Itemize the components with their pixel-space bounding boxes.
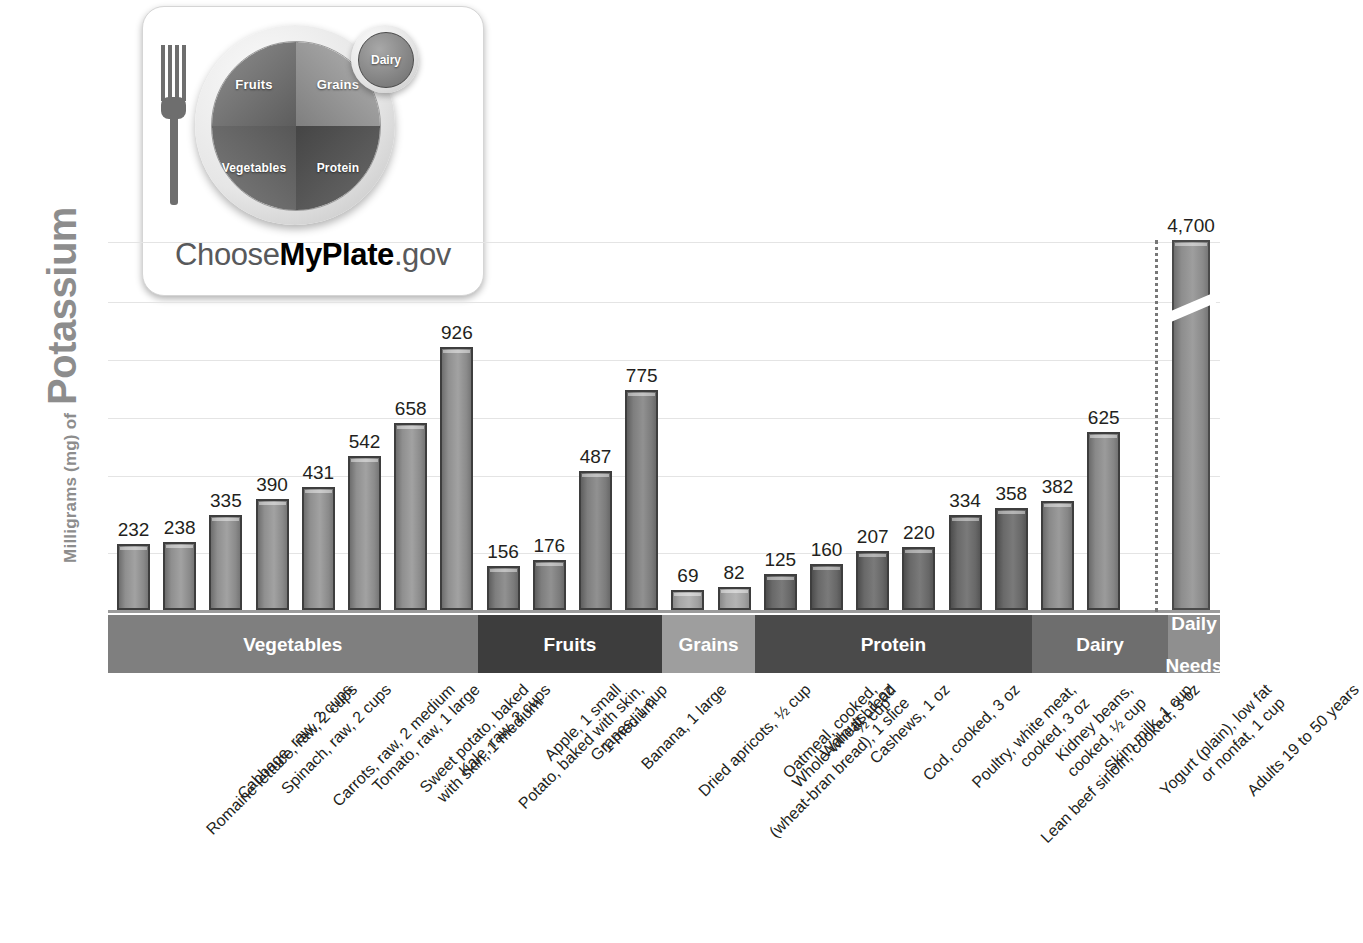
bar-value-label: 658	[378, 398, 443, 420]
bar-value-label: 238	[147, 517, 212, 539]
bar-highlight	[443, 350, 470, 353]
bar[interactable]	[533, 560, 566, 610]
gridline	[108, 242, 1220, 243]
y-axis-title: Milligrams (mg) of Potassium	[40, 145, 100, 625]
bar-highlight	[952, 518, 979, 521]
category-label-protein: Protein	[755, 615, 1032, 673]
bar-value-label: 220	[886, 522, 951, 544]
plate-segment-protein: Protein	[296, 126, 380, 210]
category-label-line: Daily	[1171, 613, 1216, 634]
bar-value-label: 926	[424, 322, 489, 344]
bar-highlight	[674, 593, 701, 596]
bar-highlight	[490, 569, 517, 572]
fork-icon	[161, 45, 187, 205]
bar-highlight	[120, 547, 147, 550]
bar[interactable]	[394, 423, 427, 610]
x-axis-tick-labels: Romaine lettuce, raw, 2 cupsCabbage, raw…	[0, 676, 1238, 943]
plate-segment-grains-label: Grains	[317, 77, 359, 92]
category-label-line: Needs	[1165, 655, 1222, 676]
bar[interactable]	[949, 515, 982, 610]
bar-highlight	[536, 563, 563, 566]
plate-segment-vegetables: Vegetables	[212, 126, 298, 210]
bar-highlight	[1175, 243, 1207, 246]
category-label-line: Vegetables	[243, 634, 342, 655]
bar-highlight	[1090, 435, 1117, 438]
bar[interactable]	[810, 564, 843, 610]
bar-highlight	[1044, 504, 1071, 507]
bar-highlight	[721, 590, 748, 593]
bar[interactable]	[256, 499, 289, 610]
category-label-grains: Grains	[662, 615, 754, 673]
bar[interactable]	[579, 471, 612, 610]
plate-segment-fruits: Fruits	[212, 42, 298, 128]
daily-needs-separator	[1155, 240, 1158, 612]
bar[interactable]	[302, 487, 335, 610]
bar[interactable]	[1087, 432, 1120, 610]
bar-highlight	[628, 393, 655, 396]
bar-value-label: 542	[332, 431, 397, 453]
y-axis-title-nutrient: Potassium	[40, 207, 85, 405]
bar-highlight	[351, 459, 378, 462]
category-label-line: Protein	[861, 634, 926, 655]
gridline	[108, 418, 1220, 419]
bar[interactable]	[625, 390, 658, 610]
bar-highlight	[212, 518, 239, 521]
bar[interactable]	[209, 515, 242, 610]
bar[interactable]	[117, 544, 150, 610]
bar-value-label: 382	[1025, 476, 1090, 498]
bar-value-label: 4,700	[1156, 215, 1226, 237]
plate-dairy-cup-inner: Dairy	[358, 32, 414, 88]
bar[interactable]	[440, 347, 473, 610]
bar-highlight	[998, 511, 1025, 514]
bar[interactable]	[1041, 501, 1074, 610]
bar[interactable]	[995, 508, 1028, 610]
plate-segment-protein-label: Protein	[317, 161, 360, 175]
bar-value-label: 625	[1071, 407, 1136, 429]
bar[interactable]	[348, 456, 381, 610]
bar-value-label: 775	[609, 365, 674, 387]
bar-highlight	[905, 550, 932, 553]
category-label-daily-needs: DailyNeeds	[1168, 615, 1220, 673]
plate-segment-vegetables-label: Vegetables	[222, 161, 287, 175]
category-label-dairy: Dairy	[1032, 615, 1168, 673]
category-label-line: Grains	[678, 634, 738, 655]
y-axis-title-units: Milligrams (mg) of	[61, 413, 81, 563]
bar-value-label: 176	[517, 535, 582, 557]
bar-highlight	[397, 426, 424, 429]
bar[interactable]	[671, 590, 704, 610]
x-axis-baseline	[108, 610, 1220, 613]
bar-highlight	[166, 545, 193, 548]
plate-segment-fruits-label: Fruits	[235, 77, 272, 92]
bar-highlight	[582, 474, 609, 477]
plate-segment-dairy-label: Dairy	[371, 53, 401, 67]
gridline	[108, 302, 1220, 303]
bar-highlight	[259, 502, 286, 505]
category-label-vegetables: Vegetables	[108, 615, 478, 673]
bar[interactable]	[764, 574, 797, 610]
bar-value-label: 431	[286, 462, 351, 484]
bar[interactable]	[163, 542, 196, 610]
category-label-line: Dairy	[1076, 634, 1124, 655]
bar-highlight	[305, 490, 332, 493]
bar-highlight	[767, 577, 794, 580]
category-band: VegetablesFruitsGrainsProteinDairyDailyN…	[108, 615, 1220, 673]
bar-highlight	[813, 567, 840, 570]
bar[interactable]	[487, 566, 520, 610]
category-label-fruits: Fruits	[478, 615, 663, 673]
bar[interactable]	[902, 547, 935, 610]
bar[interactable]	[718, 587, 751, 610]
bar-value-label: 487	[563, 446, 628, 468]
plate-dairy-cup: Dairy	[351, 25, 419, 93]
bar-highlight	[859, 554, 886, 557]
category-label-line: Fruits	[544, 634, 597, 655]
gridline	[108, 360, 1220, 361]
bar[interactable]	[856, 551, 889, 610]
